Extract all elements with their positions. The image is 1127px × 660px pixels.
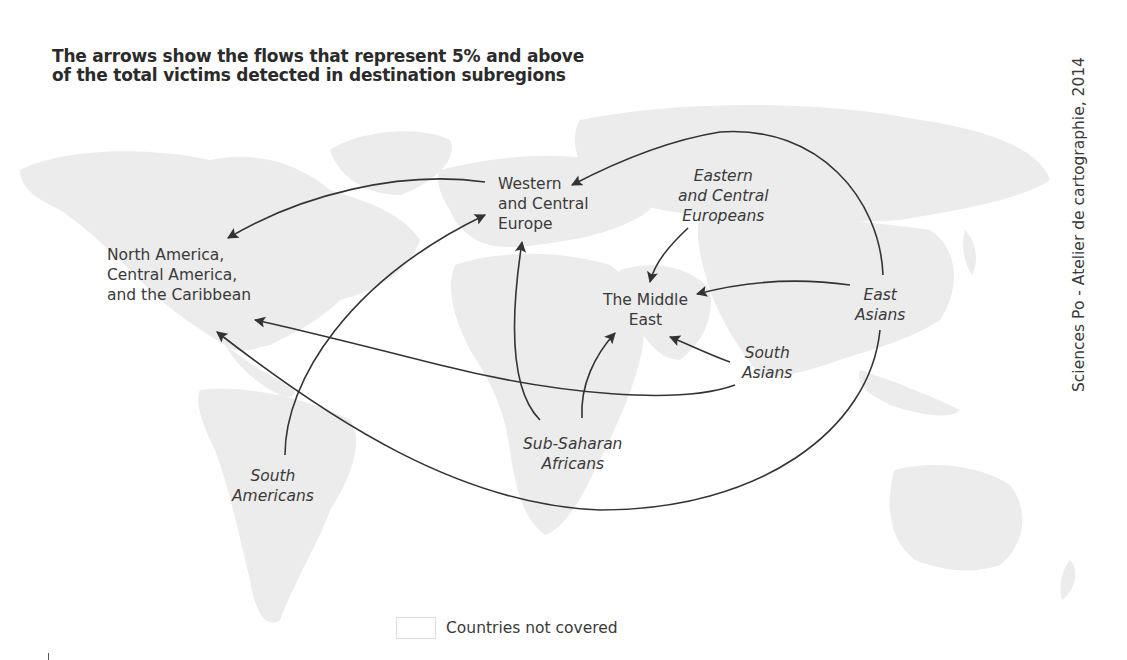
- map-title: The arrows show the flows that represent…: [52, 47, 584, 85]
- label-sub-saharan: Sub-Saharan Africans: [523, 434, 622, 474]
- label-north-america: North America, Central America, and the …: [107, 245, 251, 305]
- asia: [698, 215, 954, 376]
- label-western-europe: Western and Central Europe: [498, 174, 589, 234]
- label-middle-east: The Middle East: [603, 290, 688, 330]
- new-zealand: [1060, 560, 1075, 600]
- label-south-asians: South Asians: [742, 343, 792, 383]
- australia: [890, 465, 1023, 570]
- japan: [963, 230, 976, 275]
- russia: [575, 105, 1050, 222]
- map-title-line-2: of the total victims detected in destina…: [52, 66, 584, 85]
- map-title-line-1: The arrows show the flows that represent…: [52, 47, 584, 66]
- legend: Countries not covered: [396, 617, 618, 639]
- legend-swatch-not-covered: [396, 617, 436, 639]
- label-south-americans: South Americans: [232, 466, 314, 506]
- legend-label-not-covered: Countries not covered: [446, 619, 618, 637]
- greenland: [330, 131, 452, 195]
- corner-tick: [48, 653, 49, 660]
- map-credit: Sciences Po - Atelier de cartographie, 2…: [1070, 57, 1088, 392]
- central-america: [225, 345, 294, 397]
- label-eastern-europeans: Eastern and Central Europeans: [678, 166, 769, 226]
- southeast-asia: [859, 370, 960, 415]
- world-map: [0, 0, 1127, 660]
- label-east-asians: East Asians: [855, 285, 905, 325]
